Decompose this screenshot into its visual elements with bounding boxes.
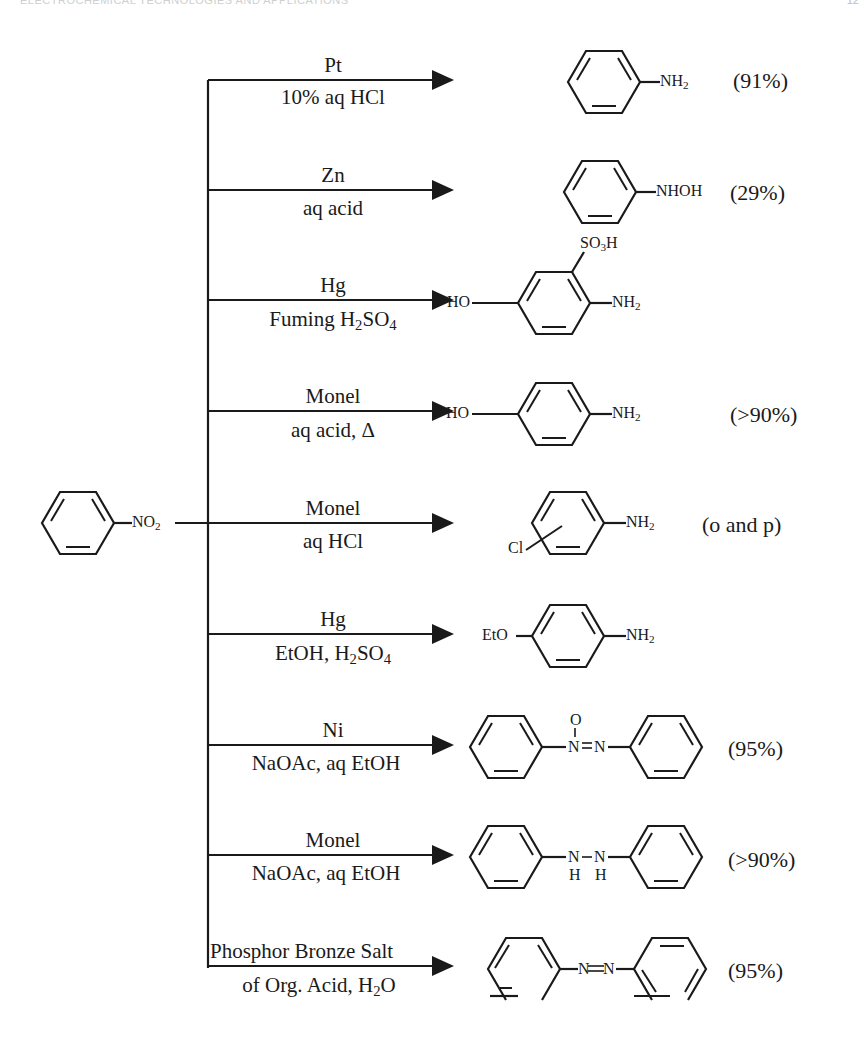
product9-n1-label: N [578, 961, 590, 977]
product-chloroaniline [526, 492, 626, 554]
product9-n2-label: N [603, 961, 615, 977]
product8-h1-label: H [569, 867, 581, 883]
product8-h2-label: H [595, 867, 607, 883]
conditions-label-7: NaOAc, aq EtOH [214, 752, 438, 774]
product2-nhoh-label: NHOH [656, 183, 702, 199]
conditions-label-5: aq HCl [228, 530, 438, 552]
product5-cl-label: Cl [508, 540, 523, 556]
product8-n2-label: N [594, 849, 606, 865]
conditions-label-8: NaOAc, aq EtOH [214, 862, 438, 884]
yield-9: (95%) [728, 958, 783, 984]
yield-4: (>90%) [730, 402, 797, 428]
yield-2: (29%) [730, 180, 785, 206]
yield-7: (95%) [728, 736, 783, 762]
product-phenetidine [516, 605, 626, 667]
yield-5: (o and p) [702, 512, 781, 538]
product4-ho-label: HO [446, 405, 469, 421]
product8-n1-label: N [568, 849, 580, 865]
product6-eto-label: EtO [482, 627, 508, 643]
product6-nh2-label: NH2 [626, 627, 655, 643]
product-aminophenol [472, 383, 612, 445]
reactant-nitrobenzene [42, 492, 208, 554]
catalyst-label-1: Pt [228, 54, 438, 76]
product-azobenzene [488, 938, 706, 1000]
catalyst-label-2: Zn [228, 164, 438, 186]
product3-so3h-label: SO3H [580, 235, 618, 251]
reactant-no2-label: NO2 [132, 514, 161, 530]
conditions-label-2: aq acid [228, 197, 438, 219]
product-aniline [568, 51, 660, 113]
conditions-label-3: Fuming H2SO4 [228, 308, 438, 330]
product-phenylhydroxylamine [564, 161, 656, 223]
product5-nh2-label: NH2 [626, 514, 655, 530]
catalyst-label-6: Hg [228, 608, 438, 630]
conditions-label-9: of Org. Acid, H2O [214, 974, 424, 996]
catalyst-label-5: Monel [228, 497, 438, 519]
product3-ho-label: HO [447, 294, 470, 310]
catalyst-label-4: Monel [228, 385, 438, 407]
product7-o-label: O [570, 712, 582, 728]
yield-1: (91%) [733, 68, 788, 94]
conditions-label-6: EtOH, H2SO4 [228, 642, 438, 664]
yield-8: (>90%) [728, 847, 795, 873]
product4-nh2-label: NH2 [612, 405, 641, 421]
product-aminohydroxysulfonic-acid [472, 252, 612, 334]
product-hydrazobenzene [470, 826, 702, 888]
catalyst-label-9: Phosphor Bronze Salt [210, 940, 418, 962]
conditions-label-4: aq acid, Δ [228, 419, 438, 441]
product7-n2-label: N [594, 739, 606, 755]
conditions-label-1: 10% aq HCl [228, 86, 438, 108]
product3-nh2-label: NH2 [612, 294, 641, 310]
product-azoxybenzene [470, 716, 702, 778]
catalyst-label-3: Hg [228, 274, 438, 296]
product1-nh2-label: NH2 [660, 73, 689, 89]
catalyst-label-7: Ni [228, 719, 438, 741]
catalyst-label-8: Monel [228, 829, 438, 851]
product7-n1-label: N [568, 739, 580, 755]
